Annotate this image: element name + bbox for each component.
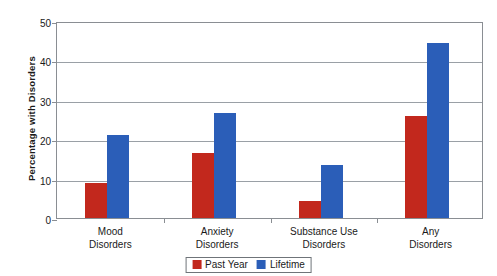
y-tick-mark [52, 220, 57, 221]
bar-group [164, 23, 271, 218]
x-tick-mark [377, 218, 378, 223]
bar-past-year [405, 116, 427, 218]
bar-group [271, 23, 378, 218]
bar-past-year [192, 153, 214, 218]
bar-lifetime [107, 135, 129, 218]
bar-lifetime [214, 113, 236, 218]
chart-legend: Past YearLifetime [185, 257, 312, 273]
bar-lifetime [427, 43, 449, 218]
x-category-label: Substance UseDisorders [290, 226, 358, 251]
x-category-label: MoodDisorders [89, 226, 132, 251]
x-tick-mark [271, 218, 272, 223]
x-tick-mark [164, 218, 165, 223]
bars-layer [57, 23, 482, 218]
plot-area: 01020304050 MoodDisordersAnxietyDisorder… [56, 22, 483, 219]
x-category-label: AnyDisorders [409, 226, 452, 251]
legend-swatch-icon [257, 260, 266, 269]
x-category-line: Disorders [409, 239, 452, 252]
x-category-line: Substance Use [290, 226, 358, 239]
x-category-line: Mood [89, 226, 132, 239]
bar-group [377, 23, 484, 218]
x-category-line: Anxiety [196, 226, 239, 239]
y-tick-label: 10 [40, 175, 51, 186]
y-axis-title: Percentage with Disorders [26, 19, 37, 219]
bar-lifetime [321, 165, 343, 218]
x-category-line: Disorders [290, 239, 358, 252]
y-tick-label: 30 [40, 96, 51, 107]
x-category-line: Any [409, 226, 452, 239]
bar-past-year [299, 201, 321, 218]
legend-label: Past Year [205, 259, 248, 270]
bar-past-year [85, 183, 107, 218]
y-tick-label: 20 [40, 136, 51, 147]
legend-item[interactable]: Lifetime [257, 259, 305, 270]
legend-label: Lifetime [270, 259, 305, 270]
y-tick-label: 40 [40, 57, 51, 68]
y-tick-label: 0 [45, 215, 51, 226]
y-tick-label: 50 [40, 18, 51, 29]
x-category-line: Disorders [89, 239, 132, 252]
legend-swatch-icon [192, 260, 201, 269]
bar-group [57, 23, 164, 218]
legend-item[interactable]: Past Year [192, 259, 248, 270]
x-category-label: AnxietyDisorders [196, 226, 239, 251]
x-category-line: Disorders [196, 239, 239, 252]
bar-chart-figure: Percentage with Disorders 01020304050 Mo… [0, 0, 497, 276]
